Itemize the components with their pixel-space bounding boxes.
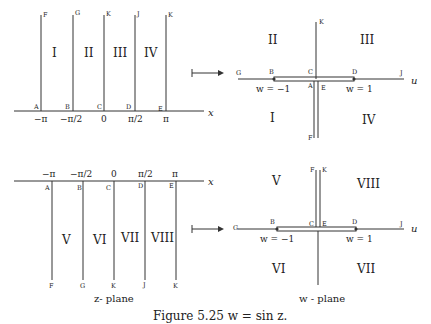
region-label: VI [271, 262, 286, 276]
region-label: II [268, 33, 278, 47]
pt-A: A [44, 184, 50, 192]
pt-K: K [173, 282, 178, 290]
axis-label-x: x [208, 107, 214, 118]
pt-D: D [126, 103, 131, 111]
pt-J: J [399, 220, 403, 228]
pt-E: E [158, 105, 163, 113]
tick-label: −π/2 [70, 169, 92, 179]
upper-w-slit [274, 77, 354, 81]
pt-F: F [308, 134, 313, 142]
pt-F: F [49, 282, 54, 290]
pt-K: K [168, 11, 173, 19]
pt-D: D [352, 68, 357, 76]
pt-F: F [310, 166, 315, 174]
region-label: VI [92, 233, 107, 247]
region-label: V [61, 233, 71, 247]
w-plane-label: w - plane [299, 293, 345, 304]
pt-G: G [75, 9, 80, 17]
region-label: I [52, 46, 57, 60]
pt-G: G [233, 224, 238, 232]
region-label: V [271, 174, 281, 188]
pt-K: K [319, 18, 324, 26]
region-label: VII [120, 231, 139, 245]
pt-B: B [65, 103, 70, 111]
axis-label-x: x [208, 176, 214, 187]
pt-B: B [269, 68, 274, 76]
pt-K: K [106, 10, 111, 18]
lower-w-slit [277, 227, 356, 231]
region-label: VII [356, 262, 375, 276]
pt-D: D [138, 182, 143, 190]
pt-J: J [399, 69, 403, 77]
pt-J: J [142, 281, 146, 289]
tick-label: π [163, 114, 169, 124]
pt-E: E [321, 84, 326, 92]
w-minus-one: w = −1 [260, 234, 294, 244]
region-label: IV [362, 113, 376, 127]
pt-D: D [352, 218, 357, 226]
tick-label: π/2 [128, 114, 143, 124]
pt-K: K [322, 166, 327, 174]
pt-G: G [80, 282, 85, 290]
region-label: VIII [356, 177, 380, 191]
w-plus-one: w = 1 [346, 84, 373, 94]
region-label: III [360, 33, 374, 47]
z-plane-label: z- plane [94, 293, 134, 304]
pt-C: C [106, 184, 111, 192]
region-label: IV [144, 46, 158, 60]
pt-C: C [308, 68, 313, 76]
axis-label-u: u [411, 75, 417, 86]
pt-F: F [43, 11, 48, 19]
tick-label: −π/2 [60, 114, 82, 124]
region-label: III [113, 46, 127, 60]
pt-E: E [169, 182, 174, 190]
pt-B: B [270, 218, 275, 226]
tick-label: π/2 [138, 169, 153, 179]
pt-K: K [111, 282, 116, 290]
pt-C: C [97, 103, 102, 111]
tick-label: −π [42, 169, 56, 179]
tick-label: 0 [101, 114, 107, 124]
pt-A: A [33, 103, 39, 111]
tick-label: 0 [111, 169, 117, 179]
region-label: I [270, 111, 275, 125]
w-minus-one: w = −1 [256, 84, 290, 94]
region-label: VIII [150, 231, 174, 245]
pt-J: J [136, 10, 140, 18]
tick-label: π [172, 169, 178, 179]
tick-label: −π [34, 114, 48, 124]
pt-B: B [77, 184, 82, 192]
axis-label-u: u [411, 223, 417, 234]
pt-A: A [307, 82, 313, 90]
w-plus-one: w = 1 [346, 234, 373, 244]
figure-canvas: F G K J K I II III IV A B C D E −π −π/2 … [0, 0, 431, 324]
pt-E: E [322, 220, 327, 228]
figure-caption: Figure 5.25 w = sin z. [153, 309, 287, 323]
pt-G: G [236, 69, 241, 77]
region-label: II [84, 46, 94, 60]
pt-C: C [309, 220, 314, 228]
